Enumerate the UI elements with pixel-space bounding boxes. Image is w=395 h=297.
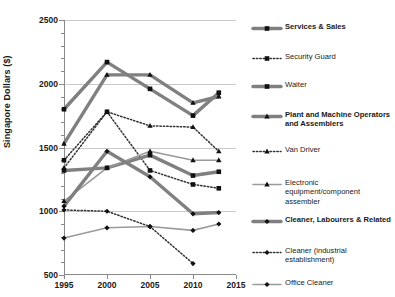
legend-marker-triangle-icon <box>252 146 282 157</box>
y-axis-tick-label: 2500 <box>39 15 58 25</box>
x-axis-tick-label: 2000 <box>98 280 117 290</box>
legend-item-label: Waiter <box>282 80 307 89</box>
data-point-marker <box>148 168 153 173</box>
x-axis-tick-label: 2005 <box>141 280 160 290</box>
series-line <box>64 210 193 264</box>
legend-item[interactable]: Security Guard <box>252 52 336 64</box>
x-axis-tick-label: 1995 <box>55 280 74 290</box>
data-point-marker <box>104 209 109 214</box>
y-axis-tick-label: 500 <box>44 270 58 280</box>
legend-item-label: Cleaner, Labourers & Related <box>282 215 391 224</box>
x-axis-tick <box>107 275 108 279</box>
data-point-marker <box>147 148 152 153</box>
y-axis-title: Singapore Dollars ($) <box>2 55 12 148</box>
legend-item-label: Electronic equipment/component assembler <box>282 178 392 206</box>
data-point-marker <box>148 87 153 92</box>
legend-item-label: Security Guard <box>282 52 336 61</box>
y-axis-tick-label: 2000 <box>39 79 58 89</box>
series-line <box>64 224 219 238</box>
legend-item[interactable]: Waiter <box>252 80 307 92</box>
legend-item[interactable]: Van Driver <box>252 145 320 157</box>
line-chart: Singapore Dollars ($) 500100015002000250… <box>0 0 395 297</box>
legend-item[interactable]: Electronic equipment/component assembler <box>252 178 392 206</box>
x-axis-tick <box>150 275 151 279</box>
legend-item[interactable]: Office Cleaner <box>252 278 333 290</box>
legend-marker-triangle-icon <box>252 179 282 190</box>
legend-marker-diamond-icon <box>252 216 282 227</box>
legend-item[interactable]: Services & Sales <box>252 22 346 34</box>
legend-item-label: Services & Sales <box>282 22 346 31</box>
legend-item[interactable]: Plant and Machine Operators and Assemble… <box>252 110 392 129</box>
plot-area: 5001000150020002500 19952000200520102015 <box>64 20 236 275</box>
data-point-marker <box>148 153 153 158</box>
x-axis-tick-label: 2010 <box>184 280 203 290</box>
legend-marker-diamond-icon <box>252 247 282 258</box>
data-point-marker <box>191 182 196 187</box>
data-point-marker <box>217 169 222 174</box>
data-point-marker <box>62 158 67 163</box>
legend-marker-triangle-icon <box>252 111 282 122</box>
legend-marker-diamond-icon <box>252 279 282 290</box>
data-point-marker <box>190 228 195 233</box>
legend-item-label: Office Cleaner <box>282 278 333 287</box>
x-axis-tick-label: 2015 <box>227 280 246 290</box>
x-axis-tick <box>64 275 65 279</box>
legend-item[interactable]: Cleaner (industrial establishment) <box>252 246 392 265</box>
data-point-marker <box>191 173 196 178</box>
data-point-marker <box>217 186 222 191</box>
legend-item-label: Plant and Machine Operators and Assemble… <box>282 110 392 129</box>
x-axis-tick <box>193 275 194 279</box>
y-axis-tick-label: 1500 <box>39 143 58 153</box>
data-point-marker <box>191 113 196 118</box>
legend-item-label: Cleaner (industrial establishment) <box>282 246 392 265</box>
data-point-marker <box>105 60 110 65</box>
legend-marker-square-icon <box>252 81 282 92</box>
legend-marker-square-icon <box>252 53 282 64</box>
data-point-marker <box>216 221 221 226</box>
y-axis-tick-label: 1000 <box>39 206 58 216</box>
legend-item-label: Van Driver <box>282 145 320 154</box>
data-point-marker <box>62 107 67 112</box>
data-point-marker <box>216 210 221 215</box>
series-layer <box>64 20 236 275</box>
data-point-marker <box>104 225 109 230</box>
legend-marker-square-icon <box>252 23 282 34</box>
legend-item[interactable]: Cleaner, Labourers & Related <box>252 215 391 227</box>
x-axis-tick <box>236 275 237 279</box>
